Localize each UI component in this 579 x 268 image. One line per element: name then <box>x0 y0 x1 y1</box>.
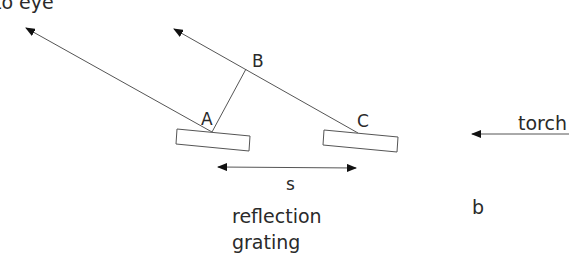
to-eye-label: to eye <box>0 0 54 13</box>
ray-from-a-arrow <box>26 28 212 132</box>
reflection-grating-diagram: to eye A B C s reflection grating torch … <box>0 0 579 268</box>
point-b-label: B <box>252 51 264 71</box>
spacing-double-arrow <box>218 167 356 168</box>
grating-label-line2: grating <box>232 231 300 253</box>
grating-element-c <box>323 130 398 152</box>
torch-label: torch <box>518 112 567 134</box>
point-a-label: A <box>201 109 213 129</box>
grating-element-a <box>176 129 250 151</box>
point-c-label: C <box>357 111 369 131</box>
path-difference-line <box>212 69 246 132</box>
grating-label-line1: reflection <box>232 205 322 227</box>
panel-label: b <box>472 196 484 218</box>
spacing-label: s <box>286 174 295 194</box>
